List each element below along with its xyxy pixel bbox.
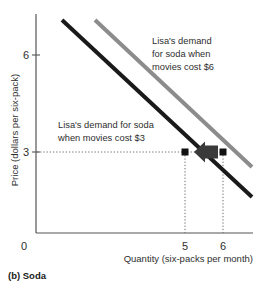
curve-label-movies-cost-3-line1: Lisa's demand for soda bbox=[58, 120, 155, 130]
y-axis-title: Price (dollars per six-pack) bbox=[9, 74, 20, 186]
curve-label-movies-cost-6-line3: movies cost $6 bbox=[152, 62, 214, 72]
xtick-label-0: 0 bbox=[21, 240, 27, 252]
ytick-label-6: 6 bbox=[23, 49, 29, 61]
curve-label-movies-cost-6-line2: for soda when bbox=[152, 49, 210, 59]
curve-label-movies-cost-6-line1: Lisa's demand bbox=[152, 36, 212, 46]
figure-soda-demand-shift: 6 3 0 5 6 Quantity (six-packs per month)… bbox=[0, 0, 261, 291]
x-axis-title: Quantity (six-packs per month) bbox=[124, 253, 253, 264]
xtick-label-6: 6 bbox=[220, 240, 226, 252]
point-marker-quantity-6 bbox=[220, 149, 227, 156]
ytick-label-3: 3 bbox=[23, 146, 29, 158]
curve-label-movies-cost-3-line2: when movies cost $3 bbox=[57, 133, 145, 143]
demand-curve-chart: 6 3 0 5 6 Quantity (six-packs per month)… bbox=[0, 0, 261, 291]
curve-label-movies-cost-6: Lisa's demand for soda when movies cost … bbox=[152, 36, 214, 72]
xtick-label-5: 5 bbox=[182, 240, 188, 252]
point-marker-quantity-5 bbox=[182, 149, 189, 156]
figure-caption: (b) Soda bbox=[8, 270, 47, 281]
